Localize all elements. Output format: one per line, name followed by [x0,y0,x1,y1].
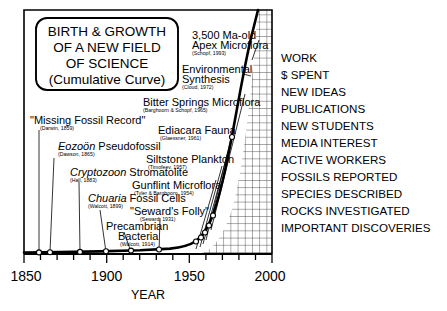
title-line-0: BIRTH & GROWTH [48,24,166,39]
annotation-citation: (Barghoorn & Schopf, 1965) [143,107,208,113]
right-label-media-interest: MEDIA INTEREST [281,136,378,149]
title-line-2: OF SCIENCE [66,56,149,71]
right-label-new-students: NEW STUDENTS [281,119,374,132]
right-label-species-described: SPECIES DESCRIBED [281,187,402,200]
right-label-publications: PUBLICATIONS [281,102,365,115]
annotation-bitter-springs-microflora: Bitter Springs Microflora (Barghoorn & S… [143,96,261,113]
x-tick-label-3: 2000 [254,268,285,284]
right-label-new-ideas: NEW IDEAS [281,85,346,98]
title-line-3: (Cumulative Curve) [49,72,165,87]
annotation-citation: (Walcott, 1899) [88,203,123,209]
x-axis-minor-ticks [24,254,272,263]
figure-root: 1850 1900 1950 2000 YEAR [0,0,447,311]
title-line-1: OF A NEW FIELD [53,40,161,55]
right-label-fossils-reported: FOSSILS REPORTED [281,170,397,183]
annotation-citation: (Cloud, 1972) [182,84,214,90]
annotation-missing-fossil-record: "Missing Fossil Record" (Darwin, 1859) [30,114,145,131]
annotation-ediacara-fauna: Ediacara Fauna (Glaessner, 1961) [158,124,237,141]
annotation-label-roman: Fossil Cells [127,192,187,204]
right-label-list: WORK $ SPENT NEW IDEAS PUBLICATIONS NEW … [281,51,431,234]
title-box: BIRTH & GROWTH OF A NEW FIELD OF SCIENCE… [36,18,178,90]
cumulative-growth-chart: 1850 1900 1950 2000 YEAR [0,0,447,311]
x-axis-title: YEAR [131,288,165,302]
x-tick-label-1: 1900 [91,268,122,284]
right-label-rocks-investigated: ROCKS INVESTIGATED [281,204,410,217]
annotation-citation: (Darwin, 1859) [40,125,74,131]
x-axis: 1850 1900 1950 2000 YEAR [10,254,285,302]
right-label-active-workers: ACTIVE WORKERS [281,153,386,166]
annotation-citation: (Walcott, 1914) [120,241,155,247]
right-label-important-discoveries: IMPORTANT DISCOVERIES [281,221,431,234]
x-tick-label-0: 1850 [10,268,41,284]
annotation-citation: (Hall, 1883) [70,177,97,183]
annotation-label-roman: Pseudofossil [95,140,160,152]
annotation-citation: (Dawson, 1865) [58,151,95,157]
x-tick-label-2: 1950 [174,268,205,284]
annotation-citation: (Glaessner, 1961) [160,135,202,141]
right-label-work: WORK [281,51,317,64]
annotation-citation: (Schopf, 1993) [192,50,226,56]
annotation-label-roman: Stromatolite [126,166,188,178]
right-label-spent: $ SPENT [281,68,329,81]
